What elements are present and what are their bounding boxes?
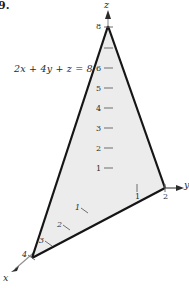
z-axis-label: z xyxy=(104,0,109,10)
z-tick-label-1: 1 xyxy=(92,164,101,173)
z-tick-label-3: 3 xyxy=(92,124,101,133)
x-axis-label: x xyxy=(3,272,8,283)
plane-equation-label: 2x + 4y + z = 8 xyxy=(14,63,93,74)
x-tick-label-1: 1 xyxy=(73,203,82,212)
z-tick-label-2: 2 xyxy=(92,144,101,153)
z-tick-label-8: 8 xyxy=(92,22,101,31)
x-tick-label-4: 4 xyxy=(20,250,29,259)
x-tick-label-2: 2 xyxy=(55,220,64,229)
y-tick-label-2: 2 xyxy=(161,192,170,201)
z-tick-label-6: 6 xyxy=(92,64,101,73)
y-axis-label: y xyxy=(184,179,189,190)
z-axis-arrowhead xyxy=(105,10,111,19)
z-tick-label-4: 4 xyxy=(92,104,101,113)
figure-container: 9. 2x + 4y + z = 8 z x y 1 2 3 4 5 6 8 1… xyxy=(0,0,189,288)
y-axis-arrowhead xyxy=(176,185,184,191)
z-tick-label-5: 5 xyxy=(92,84,101,93)
x-tick-label-3: 3 xyxy=(37,236,46,245)
y-tick-label-1: 1 xyxy=(133,192,142,201)
problem-number: 9. xyxy=(0,0,9,13)
